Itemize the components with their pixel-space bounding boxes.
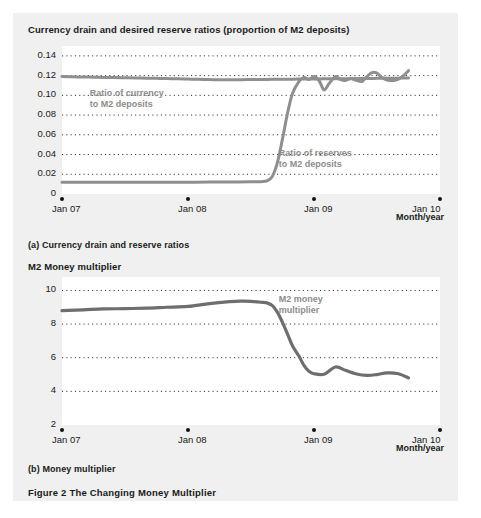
chart-a-ytick-5: 0.10 (14, 88, 56, 99)
chart-a-ytick-3: 0.06 (14, 128, 56, 139)
annotation-line-2: to M2 deposits (279, 159, 352, 170)
figure-caption: Figure 2 The Changing Money Multiplier (28, 487, 216, 498)
chart-b-xtick-label-1: Jan 08 (178, 434, 207, 445)
chart-a-xtick-label-3: Jan 10 (412, 203, 441, 214)
chart-a-xtick-label-0: Jan 07 (52, 203, 81, 214)
chart-a-xtick-label-1: Jan 08 (178, 203, 207, 214)
chart-a-ytick-0: 0 (14, 187, 56, 198)
chart-a-ytick-4: 0.08 (14, 108, 56, 119)
chart-b-ytick-2: 6 (14, 351, 56, 362)
chart-a-xtick-dot-3 (438, 197, 442, 201)
chart-b-xtick-dot-2 (312, 428, 316, 432)
chart-b-xtick-dot-1 (186, 428, 190, 432)
chart-a-annotation-1: Ratio of reservesto M2 deposits (279, 148, 352, 170)
figure-page: Currency drain and desired reserve ratio… (0, 0, 481, 518)
chart-b-xtick-dot-0 (60, 428, 64, 432)
chart-b-xtick-label-0: Jan 07 (52, 434, 81, 445)
chart-a-xtick-label-2: Jan 09 (304, 203, 333, 214)
chart-a-annotation-0: Ratio of currencyto M2 deposits (90, 88, 164, 110)
chart-b-annotation-0: M2 moneymultiplier (279, 294, 323, 316)
chart-b-ytick-4: 10 (14, 283, 56, 294)
chart-a-xtick-dot-1 (186, 197, 190, 201)
annotation-line-2: to M2 deposits (90, 99, 164, 110)
chart-a-ytick-6: 0.12 (14, 69, 56, 80)
annotation-line-1: Ratio of currency (90, 88, 164, 99)
series-line-0 (62, 301, 409, 378)
chart-b-caption: (b) Money multiplier (28, 464, 116, 474)
chart-b-xtick-label-3: Jan 10 (412, 434, 441, 445)
chart-a-ytick-7: 0.14 (14, 49, 56, 60)
annotation-line-1: Ratio of reserves (279, 148, 352, 159)
chart-b-ytick-1: 4 (14, 384, 56, 395)
chart-a-ytick-2: 0.04 (14, 148, 56, 159)
chart-b-xtick-dot-3 (438, 428, 442, 432)
chart-a-xtick-dot-2 (312, 197, 316, 201)
chart-b-xtick-label-2: Jan 09 (304, 434, 333, 445)
annotation-line-2: multiplier (279, 305, 323, 316)
chart-a-xtick-dot-0 (60, 197, 64, 201)
chart-b-ytick-0: 2 (14, 418, 56, 429)
annotation-line-1: M2 money (279, 294, 323, 305)
chart-b-ytick-3: 8 (14, 317, 56, 328)
chart-a-ytick-1: 0.02 (14, 167, 56, 178)
